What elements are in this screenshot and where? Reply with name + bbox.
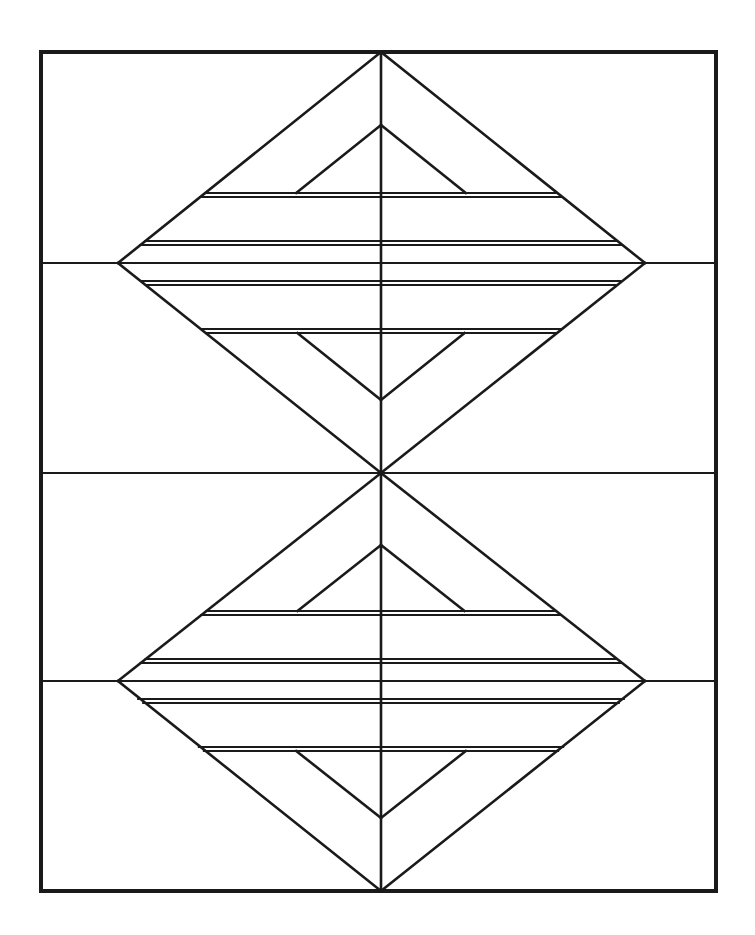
geometric-figure (0, 0, 755, 935)
drawing-canvas (0, 0, 755, 935)
page-background (0, 0, 755, 935)
